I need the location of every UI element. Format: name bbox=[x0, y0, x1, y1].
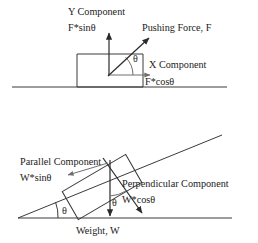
vector-angle-label: θ bbox=[112, 197, 117, 208]
y-component-formula: F*sinθ bbox=[68, 22, 96, 33]
x-component-title: X Component bbox=[149, 59, 207, 70]
perpendicular-component-title: Perpendicular Component bbox=[122, 178, 229, 189]
x-component-formula: F*cosθ bbox=[145, 76, 174, 87]
weight-label: Weight, W bbox=[76, 225, 120, 236]
pushing-force-panel: Y Component F*sinθ Pushing Force, F X Co… bbox=[12, 6, 227, 87]
angle-label-top: θ bbox=[133, 53, 138, 64]
y-component-title: Y Component bbox=[68, 6, 125, 17]
perpendicular-component-formula: W*cosθ bbox=[122, 194, 155, 205]
incline-angle-arc bbox=[56, 202, 59, 218]
incline-angle-label: θ bbox=[62, 205, 67, 216]
figure-canvas: Y Component F*sinθ Pushing Force, F X Co… bbox=[0, 0, 258, 243]
inclined-plane-panel: Parallel Component W*sinθ Perpendicular … bbox=[18, 135, 232, 236]
parallel-component-title: Parallel Component bbox=[20, 156, 101, 167]
physics-figure: Y Component F*sinθ Pushing Force, F X Co… bbox=[0, 0, 258, 243]
angle-arc-top bbox=[126, 57, 134, 75]
parallel-component-formula: W*sinθ bbox=[20, 172, 52, 183]
pushing-force-label: Pushing Force, F bbox=[142, 22, 212, 33]
